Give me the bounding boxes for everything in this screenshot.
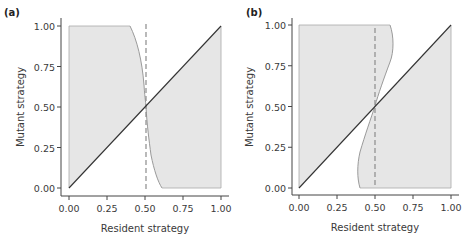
panel-b: (b) 1.00 0.75 0.50 0.25 0.00 (244, 7, 462, 233)
y-tick-label: 1.00 (265, 20, 286, 31)
y-tick-label: 0.50 (265, 102, 286, 113)
y-tick-label: 0.50 (34, 102, 55, 113)
x-tick-label: 0.00 (288, 202, 309, 213)
x-tick-label: 0.25 (96, 203, 117, 214)
x-tick-label: 1.00 (210, 203, 231, 214)
x-tick-label: 0.75 (172, 203, 193, 214)
x-tick-label: 0.75 (402, 202, 423, 213)
panel-a: (a) 1.00 0.75 0.50 0.25 0.00 (4, 7, 232, 234)
y-tick-label: 1.00 (34, 21, 55, 32)
y-tick-label: 0.75 (265, 61, 286, 72)
y-tick-label: 0.25 (265, 142, 286, 153)
y-ticks (57, 26, 61, 188)
shaded-region-left (69, 26, 146, 188)
x-tick-label: 0.25 (326, 202, 347, 213)
y-axis-label: Mutant strategy (244, 67, 255, 147)
y-tick-label: 0.00 (265, 183, 286, 194)
shaded-region-right (146, 26, 221, 188)
x-ticks (69, 196, 221, 200)
x-ticks (299, 195, 451, 199)
panel-a-label: (a) (4, 7, 20, 18)
figure: (a) 1.00 0.75 0.50 0.25 0.00 (0, 0, 473, 243)
x-axis-label: Resident strategy (331, 222, 419, 233)
x-tick-label: 1.00 (440, 202, 461, 213)
y-tick-label: 0.75 (34, 62, 55, 73)
x-tick-label: 0.00 (58, 203, 79, 214)
y-tick-label: 0.25 (34, 143, 55, 154)
y-ticks (288, 25, 292, 188)
y-axis-label: Mutant strategy (15, 67, 26, 147)
x-tick-label: 0.50 (364, 202, 385, 213)
x-tick-label: 0.50 (134, 203, 155, 214)
y-tick-label: 0.00 (34, 183, 55, 194)
x-axis-label: Resident strategy (101, 223, 189, 234)
panel-b-label: (b) (246, 7, 262, 18)
